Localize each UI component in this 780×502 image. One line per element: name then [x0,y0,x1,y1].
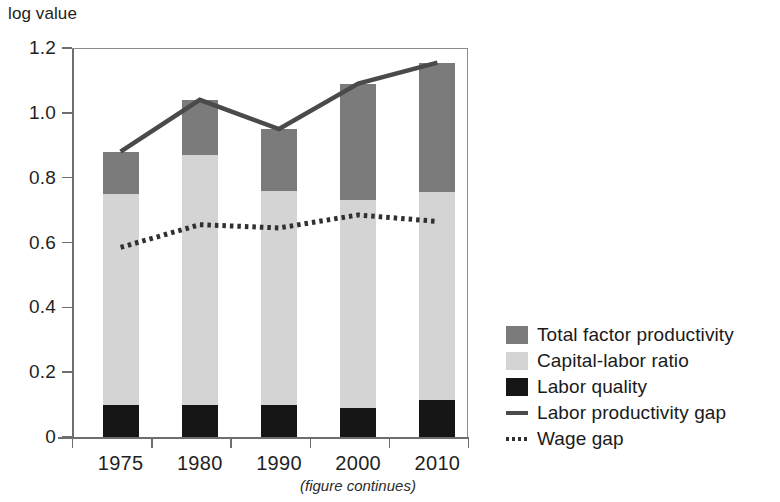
legend-label: Total factor productivity [537,324,734,346]
legend-label: Capital-labor ratio [537,350,689,372]
y-tick-label: 0.2 [2,361,56,383]
y-tick-mark [62,242,72,243]
chart-legend: Total factor productivityCapital-labor r… [506,322,734,452]
x-tick-label: 1980 [155,452,245,475]
bar-segment [340,408,376,437]
y-tick-label: 0.8 [2,167,56,189]
x-tick-label: 2000 [313,452,403,475]
bar-segment [419,192,455,399]
bar-segment [261,405,297,437]
x-axis-line [58,437,469,439]
x-tick-mark [72,437,73,448]
legend-dotted-line-icon [506,430,528,448]
y-tick-mark [62,371,72,372]
plot-area [72,48,468,437]
bar-segment [419,63,455,193]
y-tick-mark [62,436,72,437]
legend-label: Labor productivity gap [537,402,726,424]
x-tick-label: 1975 [76,452,166,475]
bar-segment [340,84,376,201]
bar-segment [103,152,139,194]
y-tick-label: 0.4 [2,296,56,318]
legend-label: Labor quality [537,376,647,398]
bar-segment [340,200,376,407]
y-tick-label: 0.6 [2,232,56,254]
bar-segment [103,194,139,405]
x-tick-label: 2010 [392,452,482,475]
bar-segment [182,405,218,437]
x-tick-mark [310,437,311,448]
figure-continues-note: (figure continues) [300,477,416,494]
y-tick-mark [62,177,72,178]
legend-label: Wage gap [537,428,624,450]
legend-swatch-icon [506,352,528,370]
y-tick-label: 1.0 [2,102,56,124]
x-tick-mark [468,437,469,448]
y-tick-label: 1.2 [2,37,56,59]
x-tick-mark [389,437,390,448]
figure-container: log value 00.20.40.60.81.01.2 1975198019… [0,0,780,502]
plot-frame-top [72,48,468,49]
bar-segment [419,400,455,437]
y-tick-label: 0 [2,426,56,448]
bar-segment [103,405,139,437]
bar-segment [182,100,218,155]
plot-frame-right [467,48,468,437]
y-tick-mark [62,307,72,308]
legend-item: Labor productivity gap [506,400,734,426]
bar-segment [182,155,218,405]
x-tick-label: 1990 [234,452,324,475]
legend-item: Total factor productivity [506,322,734,348]
x-tick-mark [151,437,152,448]
legend-swatch-icon [506,378,528,396]
bar-segment [261,129,297,191]
y-tick-mark [62,47,72,48]
legend-item: Labor quality [506,374,734,400]
legend-item: Capital-labor ratio [506,348,734,374]
legend-solid-line-icon [506,404,528,422]
legend-swatch-icon [506,326,528,344]
x-tick-mark [230,437,231,448]
y-axis-title: log value [8,4,77,24]
bar-segment [261,191,297,405]
legend-item: Wage gap [506,426,734,452]
y-tick-mark [62,112,72,113]
